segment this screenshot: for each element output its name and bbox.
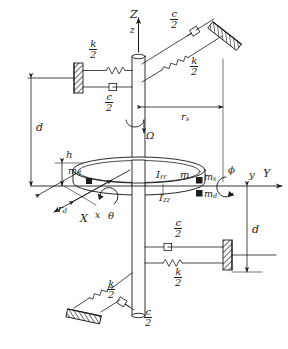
tilt-angle-label-phi: ϕ xyxy=(228,165,235,175)
shaft-lower xyxy=(132,183,145,318)
damper-label-lower-left: c 2 xyxy=(144,307,152,328)
md-sub: d xyxy=(77,169,81,177)
tilt-angle-label-theta: θ xyxy=(108,211,114,221)
schematic-drawing xyxy=(0,0,288,349)
spring-numerator: k xyxy=(174,267,182,277)
disk-mass-label: m xyxy=(180,170,189,180)
spring-denominator: 2 xyxy=(174,277,182,288)
ms-sub: s xyxy=(213,175,216,183)
spring-denominator: 2 xyxy=(190,66,198,77)
damper-denominator: 2 xyxy=(174,228,182,239)
damper-label-lower-right: c 2 xyxy=(174,218,182,239)
damper-denominator: 2 xyxy=(170,19,178,30)
damper-denominator: 2 xyxy=(105,102,113,113)
shaft-through-disk xyxy=(132,160,145,186)
axis-label-Z: Z xyxy=(130,9,138,20)
axis-label-y-local: y xyxy=(249,170,255,180)
spring-numerator: k xyxy=(107,279,115,289)
damper-numerator: c xyxy=(174,218,182,228)
damper-numerator: c xyxy=(170,9,178,19)
spring-numerator: k xyxy=(89,39,97,49)
spring-label-upper-left: k 2 xyxy=(89,39,97,60)
unbalance-mass-label-left: md xyxy=(68,166,81,177)
shaft-mass-label: ms xyxy=(204,172,216,183)
spring-denominator: 2 xyxy=(107,289,115,300)
support-lower-right xyxy=(145,240,276,270)
dimension-label-d-left: d xyxy=(36,122,43,133)
axis-label-Y: Y xyxy=(263,168,270,179)
spring-denominator: 2 xyxy=(89,49,97,60)
spring-numerator: k xyxy=(190,56,198,66)
axis-label-z-local: z xyxy=(130,26,135,35)
damper-denominator: 2 xyxy=(144,317,152,328)
damper-label-upper-right: c 2 xyxy=(170,9,178,30)
unbalance-mass-label-right: md xyxy=(204,189,217,200)
dimension-label-rd: rd xyxy=(58,204,67,215)
dimension-label-d-right: d xyxy=(252,224,259,235)
damper-label-upper-left: c 2 xyxy=(105,92,113,113)
polar-inertia-label: Izz xyxy=(159,193,170,204)
axis-label-x-local: x xyxy=(95,211,100,220)
support-lower-left xyxy=(66,273,134,324)
figure-canvas: Z z c 2 k 2 k 2 c 2 rs Ω d h md ms md ϕ … xyxy=(0,0,288,349)
damper-numerator: c xyxy=(144,307,152,317)
transverse-inertia-label: Irr xyxy=(156,170,166,181)
spring-label-lower-left: k 2 xyxy=(107,279,115,300)
ms-base: m xyxy=(204,171,213,182)
damper-numerator: c xyxy=(105,92,113,102)
md-base: m xyxy=(68,165,77,176)
rs-sub: s xyxy=(186,115,190,123)
dimension-label-rs: rs xyxy=(181,112,189,123)
md-sub: d xyxy=(213,192,217,200)
irr-sub: rr xyxy=(160,173,167,181)
spin-speed-label: Ω xyxy=(146,131,154,141)
izz-sub: zz xyxy=(163,196,170,204)
axis-label-X: X xyxy=(80,213,88,224)
spring-label-lower-right: k 2 xyxy=(174,267,182,288)
support-upper-left xyxy=(28,63,132,93)
rd-sub: d xyxy=(63,207,67,215)
dimension-label-h: h xyxy=(66,150,72,160)
phi-arc xyxy=(217,177,235,197)
md-base: m xyxy=(204,188,213,199)
spring-label-upper-right: k 2 xyxy=(190,56,198,77)
